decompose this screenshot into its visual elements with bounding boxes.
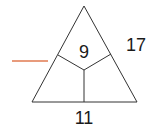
triangle-diagram: 9 17 11 bbox=[0, 0, 156, 131]
top-value: 9 bbox=[79, 42, 89, 62]
bottom-value: 11 bbox=[75, 108, 94, 128]
right-value: 17 bbox=[126, 35, 146, 55]
